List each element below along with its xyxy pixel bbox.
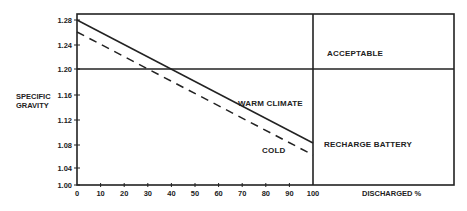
- region-label-acceptable: ACCEPTABLE: [327, 49, 384, 58]
- y-tick-label: 1.16: [57, 91, 72, 100]
- x-tick-label: 0: [75, 189, 79, 198]
- x-tick-label: 70: [238, 189, 246, 198]
- x-tick-label: 80: [262, 189, 270, 198]
- series-cold-line: [77, 32, 313, 155]
- series-warm-climate-line: [77, 20, 313, 143]
- y-tick-labels: 1.00 1.04 1.08 1.12 1.16 1.20 1.24 1.28: [57, 16, 72, 190]
- series-label-warm-climate: WARM CLIMATE: [238, 99, 303, 108]
- y-tick-label: 1.28: [57, 16, 72, 25]
- y-tick-label: 1.04: [57, 164, 72, 173]
- series-label-cold: COLD: [262, 146, 285, 155]
- y-tick-label: 1.08: [57, 141, 72, 150]
- x-tick-label: 50: [191, 189, 199, 198]
- x-axis-title: DISCHARGED %: [362, 189, 422, 198]
- y-tick-label: 1.12: [57, 116, 72, 125]
- x-tick-label: 60: [214, 189, 222, 198]
- y-axis-title-line2: GRAVITY: [16, 101, 49, 110]
- x-tick-label: 100: [307, 189, 320, 198]
- x-tick-label: 30: [144, 189, 152, 198]
- x-tick-label: 20: [120, 189, 128, 198]
- region-label-recharge-battery: RECHARGE BATTERY: [324, 140, 413, 149]
- y-tick-label: 1.00: [57, 181, 72, 190]
- x-tick-label: 10: [96, 189, 104, 198]
- y-tick-label: 1.20: [57, 65, 72, 74]
- y-axis-title-line1: SPECIFIC: [16, 92, 51, 101]
- y-tick-label: 1.24: [57, 41, 72, 50]
- x-tick-label: 40: [167, 189, 175, 198]
- x-tick-labels: 0 10 20 30 40 50 60 70 80 90 100: [75, 189, 319, 198]
- x-tick-label: 90: [285, 189, 293, 198]
- chart: 1.00 1.04 1.08 1.12 1.16 1.20 1.24 1.28 …: [0, 0, 467, 211]
